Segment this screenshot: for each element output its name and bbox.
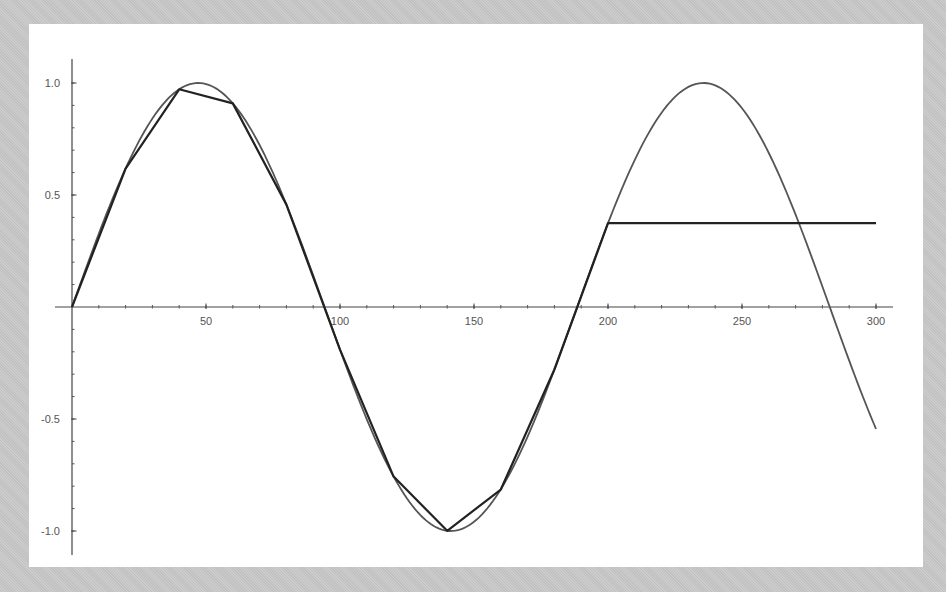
x-tick-label: 200	[599, 315, 617, 327]
x-tick-label: 50	[200, 315, 212, 327]
y-tick-label: 1.0	[45, 77, 60, 89]
axes: 50100150200250300 1.00.5-0.5-1.0	[41, 59, 893, 555]
x-tick-label: 300	[867, 315, 885, 327]
line-chart: 50100150200250300 1.00.5-0.5-1.0	[0, 0, 946, 592]
x-tick-label: 150	[465, 315, 483, 327]
x-tick-label: 100	[331, 315, 349, 327]
x-tick-label: 250	[733, 315, 751, 327]
y-tick-label: -0.5	[41, 413, 60, 425]
sampled-polyline	[72, 89, 876, 531]
y-tick-label: -1.0	[41, 525, 60, 537]
y-tick-label: 0.5	[45, 189, 60, 201]
